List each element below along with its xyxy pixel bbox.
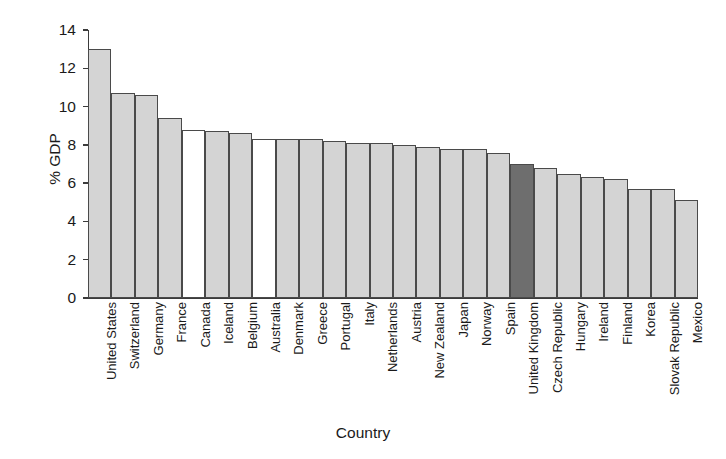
bar-united-states [88,49,111,298]
bar-czech-republic [534,168,557,298]
category-label: Switzerland [128,302,141,369]
bar-finland [604,179,627,298]
category-label: Italy [363,302,376,326]
category-label: Finland [621,302,634,345]
x-axis-line [88,298,698,299]
bar-germany [135,95,158,298]
category-label: Portugal [339,302,352,350]
category-label: Iceland [222,302,235,344]
y-axis-title: % GDP [46,99,64,219]
bar-hungary [557,174,580,298]
category-label: Slovak Republic [668,302,681,395]
bar-france [158,118,181,298]
bar-ireland [581,177,604,298]
category-label: Norway [480,302,493,346]
category-label: Belgium [246,302,259,349]
category-label: Spain [504,302,517,335]
category-label: Hungary [574,302,587,351]
bar-australia [252,139,275,298]
bar-chart: 02468101214 % GDP United StatesSwitzerla… [0,0,726,459]
x-axis-title: Country [0,424,726,442]
category-label: Germany [152,302,165,355]
plot-area [88,30,698,298]
category-label: Netherlands [386,302,399,372]
bar-portugal [323,141,346,298]
bar-mexico [675,200,698,298]
category-label: Denmark [292,302,305,355]
category-label: Japan [457,302,470,337]
category-label: New Zealand [433,302,446,379]
bar-greece [299,139,322,298]
category-label: Korea [644,302,657,337]
y-tick-label: 14 [30,22,76,38]
bar-iceland [205,131,228,298]
category-label: Ireland [597,302,610,342]
y-tick-label: 0 [30,290,76,306]
y-tick-label: 12 [30,60,76,76]
bar-new-zealand [416,147,439,298]
category-label: Australia [269,302,282,353]
bar-united-kingdom [510,164,533,298]
bar-korea [628,189,651,298]
bar-belgium [229,133,252,298]
category-label: Mexico [691,302,704,343]
bar-spain [487,153,510,298]
category-label: Greece [316,302,329,345]
bar-canada [182,130,205,298]
category-label: Canada [199,302,212,348]
bar-switzerland [111,93,134,298]
bar-norway [463,149,486,298]
category-label: Austria [410,302,423,342]
category-label: France [175,302,188,342]
category-label: United Kingdom [527,302,540,395]
bar-netherlands [370,143,393,298]
bar-japan [440,149,463,298]
bar-slovak-republic [651,189,674,298]
category-label: United States [105,302,118,380]
category-label: Czech Republic [551,302,564,393]
bar-italy [346,143,369,298]
bar-denmark [276,139,299,298]
bar-austria [393,145,416,298]
y-tick-label: 2 [30,252,76,268]
